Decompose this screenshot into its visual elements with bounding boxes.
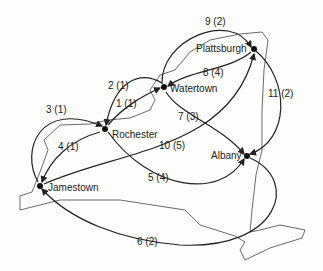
edge-label-5: 5 (4): [148, 173, 169, 183]
map-and-edges: [0, 0, 323, 271]
edge-label-9: 9 (2): [205, 17, 226, 27]
node-label-rochester: Rochester: [112, 130, 158, 140]
node-label-watertown: Watertown: [170, 84, 217, 94]
edge-label-10: 10 (5): [159, 141, 185, 151]
edge-label-4: 4 (1): [58, 142, 79, 152]
edge-label-1: 1 (1): [116, 99, 137, 109]
edge-label-11: 11 (2): [268, 89, 293, 99]
network-map-diagram: Rochester Watertown Plattsburgh Albany J…: [0, 0, 323, 271]
edge-label-2: 2 (1): [108, 81, 129, 91]
edge-label-6: 6 (2): [137, 237, 158, 247]
edge-label-3: 3 (1): [46, 105, 67, 115]
node-label-albany: Albany: [211, 151, 242, 161]
node-label-jamestown: Jamestown: [48, 183, 99, 193]
edge-label-7: 7 (3): [178, 112, 199, 122]
edge-label-8: 8 (4): [203, 68, 224, 78]
node-label-plattsburgh: Plattsburgh: [196, 44, 247, 54]
